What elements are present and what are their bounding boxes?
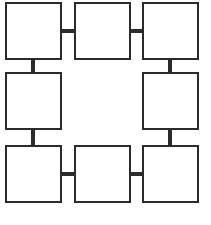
- node-bottom-center[interactable]: [74, 145, 131, 203]
- node-top-center[interactable]: [74, 2, 131, 60]
- node-bottom-right[interactable]: [142, 145, 199, 203]
- node-top-center-label: [76, 4, 129, 58]
- node-top-left[interactable]: [5, 2, 62, 60]
- node-middle-left-label: [7, 74, 60, 128]
- diagram-canvas: [0, 0, 211, 225]
- node-top-left-label: [7, 4, 60, 58]
- node-bottom-left-label: [7, 147, 60, 201]
- node-top-right-label: [144, 4, 197, 58]
- node-middle-left[interactable]: [5, 72, 62, 130]
- node-middle-right-label: [144, 74, 197, 128]
- node-bottom-right-label: [144, 147, 197, 201]
- node-middle-right[interactable]: [142, 72, 199, 130]
- node-top-right[interactable]: [142, 2, 199, 60]
- node-bottom-left[interactable]: [5, 145, 62, 203]
- node-bottom-center-label: [76, 147, 129, 201]
